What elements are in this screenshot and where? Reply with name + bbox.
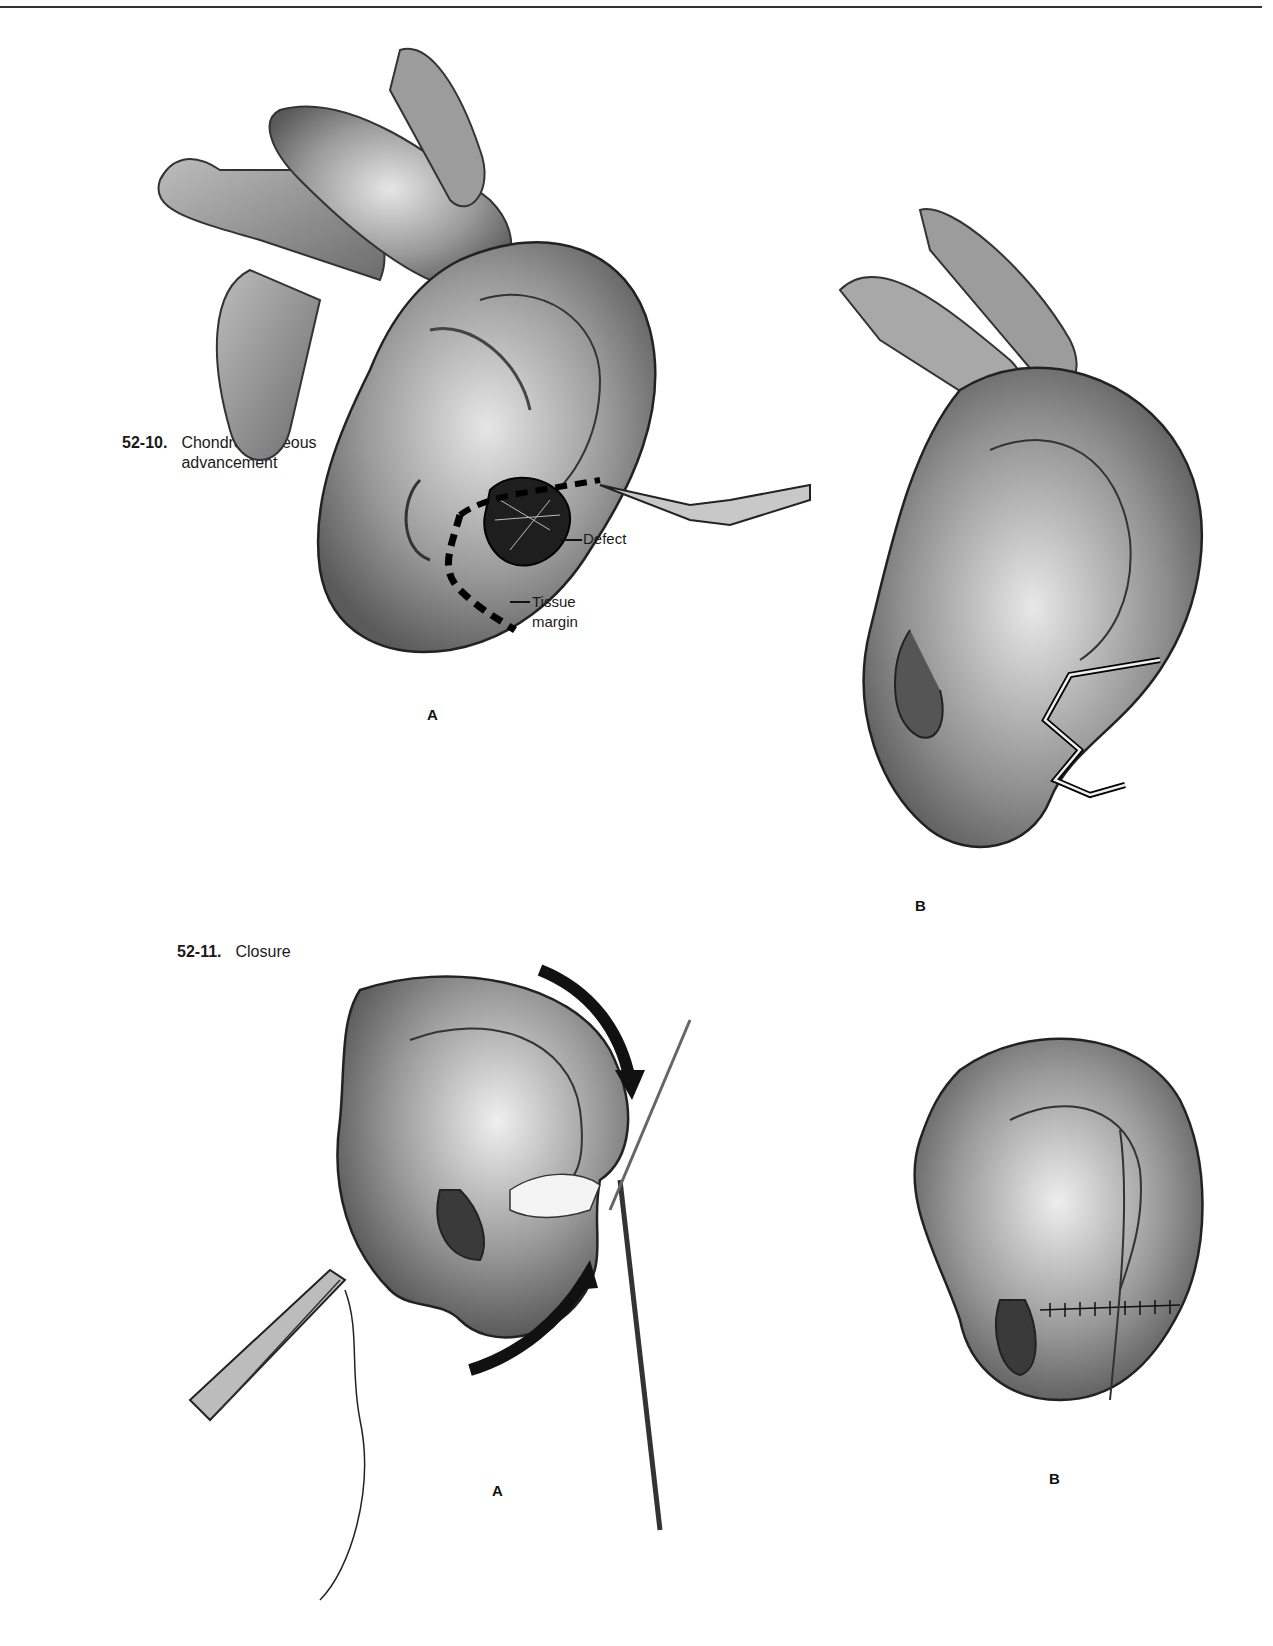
figure-52-11-caption: 52-11.Closure: [177, 942, 291, 962]
ear-defect-illustration: [130, 30, 830, 690]
caption-line: Closure: [235, 942, 290, 962]
panel-label-52-10-b: B: [915, 897, 926, 914]
figure-number: 52-11.: [177, 943, 221, 960]
panel-label-52-11-a: A: [492, 1482, 503, 1499]
callout-defect: Defect: [583, 530, 626, 547]
ear-closure-illustration: [190, 970, 710, 1646]
ear-incision-illustration: [780, 190, 1220, 890]
callout-line: Tissue: [532, 593, 576, 610]
panel-label-52-11-b: B: [1049, 1470, 1060, 1487]
callout-line: margin: [532, 613, 578, 630]
header-rule: [0, 6, 1262, 8]
panel-label-52-10-a: A: [427, 706, 438, 723]
ear-sutured-illustration: [880, 1000, 1220, 1420]
callout-tissue-margin: Tissue margin: [532, 592, 578, 632]
